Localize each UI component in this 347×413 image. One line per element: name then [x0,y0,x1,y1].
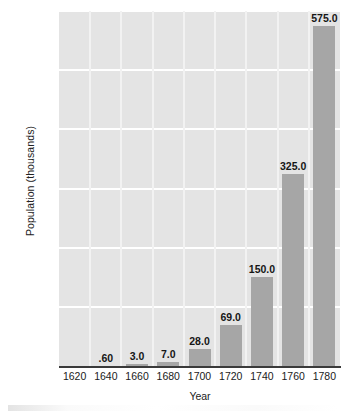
bar-1700 [189,349,211,366]
bar-value-label-1760: 325.0 [280,160,306,172]
bar-value-label-1700: 28.0 [189,335,209,347]
bar-1740 [251,277,273,366]
population-bar-chart: Population (thousands) .603.07.028.069.0… [0,0,347,413]
x-tick-label-1640: 1640 [94,370,117,382]
bar-value-label-1640: .60 [99,352,114,364]
x-tick-label-1720: 1720 [219,370,242,382]
x-axis-title: Year [59,390,341,402]
x-tick-label-1740: 1740 [250,370,273,382]
plot-area: .603.07.028.069.0150.0325.0575.0 [59,11,340,366]
bar-value-label-1660: 3.0 [130,350,145,362]
x-tick-label-1760: 1760 [281,370,304,382]
bars-layer: .603.07.028.069.0150.0325.0575.0 [59,11,340,366]
y-axis-title: Population (thousands) [24,81,36,281]
x-tick-label-1660: 1660 [125,370,148,382]
page-edge-artifact [8,405,338,411]
x-tick-label-1700: 1700 [188,370,211,382]
bar-value-label-1680: 7.0 [161,348,176,360]
x-tick-label-1680: 1680 [157,370,180,382]
x-tick-label-1780: 1780 [313,370,336,382]
bar-1720 [220,325,242,366]
bar-1780 [313,26,335,366]
bar-1760 [282,174,304,366]
bar-value-label-1720: 69.0 [221,311,241,323]
bar-value-label-1780: 575.0 [311,12,337,24]
x-tick-label-1620: 1620 [63,370,86,382]
x-axis-line [59,366,341,368]
bar-value-label-1740: 150.0 [249,263,275,275]
